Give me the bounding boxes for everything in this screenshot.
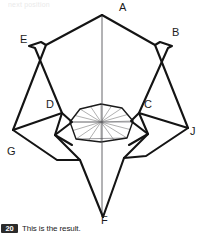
rosette-minor-spoke-6 [73,122,101,131]
rosette-spoke-8 [80,109,101,122]
rosette-spoke-4 [101,122,127,138]
vertex-label-g: G [7,145,16,157]
right-inner-tab [129,113,148,145]
model-outline-strokes [13,15,188,217]
vertex-label-a: A [119,1,127,13]
rosette-spoke-6 [76,122,101,139]
diagram-page: next position ABCDEFGJ 20 This is the re… [0,0,200,233]
rosette-spoke-2 [101,108,122,122]
caption-text: This is the result. [22,224,81,233]
vertex-label-j: J [190,125,196,137]
vertex-label-d: D [46,98,54,110]
rosette-minor-spoke-5 [89,122,102,141]
caption-row: 20 This is the result. [0,224,200,233]
vertex-label-b: B [172,26,179,38]
vertex-label-e: E [20,33,27,45]
origami-figure: ABCDEFGJ [0,0,200,233]
step-number-badge: 20 [1,224,18,233]
vertex-label-c: C [144,98,152,110]
